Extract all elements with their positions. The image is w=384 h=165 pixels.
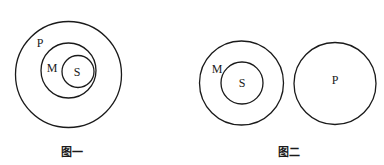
figure-1-caption: 图一	[61, 146, 83, 159]
figure-1-circle-p	[16, 22, 122, 128]
figure-2-label-s: S	[239, 76, 246, 90]
figure-1-label-p: P	[37, 36, 44, 50]
figure-2: M S P 图二	[200, 41, 377, 159]
figure-1-label-s: S	[74, 65, 81, 79]
figure-1-label-m: M	[47, 61, 58, 75]
figure-2-label-p: P	[332, 73, 339, 87]
figure-1: P M S 图一	[16, 22, 122, 159]
figure-2-label-m: M	[212, 62, 223, 76]
figure-2-caption: 图二	[278, 146, 300, 159]
euler-diagram-canvas: P M S 图一 M S P 图二	[0, 0, 384, 165]
